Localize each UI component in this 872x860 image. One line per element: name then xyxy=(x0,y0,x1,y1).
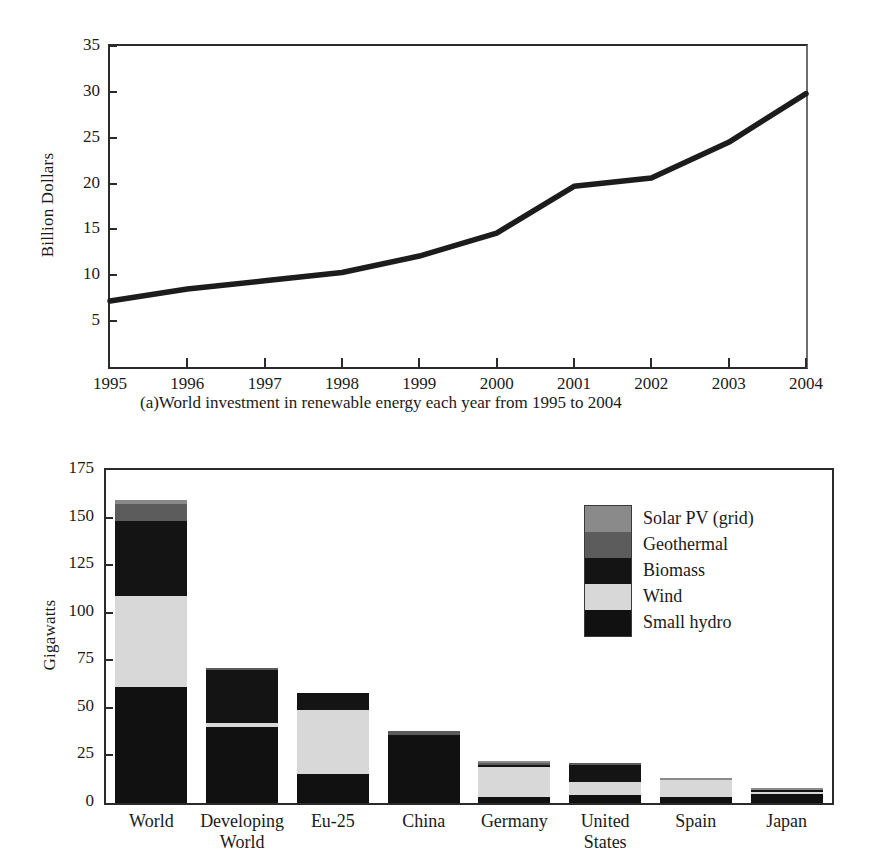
bar-chart-plot-area: Solar PV (grid)GeothermalBiomassWindSmal… xyxy=(104,468,834,805)
line-chart-x-tick xyxy=(186,358,188,367)
bar-segment-wind xyxy=(478,767,550,797)
bar-segment-small-hydro xyxy=(297,774,369,803)
bar-segment-small-hydro xyxy=(206,727,278,803)
bar-chart-y-tick-label: 25 xyxy=(38,743,94,763)
line-chart-x-tick-label: 1999 xyxy=(384,374,454,394)
bar-chart-y-tick xyxy=(104,517,113,519)
line-chart-y-tick-label: 5 xyxy=(46,310,100,330)
bar-segment-biomass xyxy=(297,693,369,710)
bar-segment-biomass xyxy=(115,521,187,595)
bar-chart-y-tick-label: 100 xyxy=(38,601,94,621)
bar-chart-y-tick xyxy=(104,707,113,709)
category-label-line: Japan xyxy=(707,811,867,832)
bar-world xyxy=(115,500,187,803)
line-chart-y-tick xyxy=(108,137,117,139)
bar-chart-y-tick-label: 175 xyxy=(38,458,94,478)
bar-developing-world xyxy=(206,668,278,803)
bar-segment-small-hydro xyxy=(478,797,550,803)
legend-swatch-column xyxy=(584,505,632,637)
line-chart-y-tick-label: 30 xyxy=(46,81,100,101)
bar-chart-y-tick-label: 125 xyxy=(38,553,94,573)
bar-chart-category-label: Japan xyxy=(707,811,867,832)
line-chart-y-tick xyxy=(108,320,117,322)
bar-segment-small-hydro xyxy=(660,797,732,803)
line-chart-x-tick-label: 1997 xyxy=(230,374,300,394)
bar-segment-wind xyxy=(297,710,369,775)
bar-segment-wind xyxy=(569,782,641,795)
line-chart-x-tick xyxy=(573,358,575,367)
line-chart-x-tick-label: 2002 xyxy=(616,374,686,394)
line-chart-x-tick xyxy=(805,358,807,367)
line-chart-figure: Billion Dollars 5101520253035 1995199619… xyxy=(0,0,872,440)
line-chart-y-tick-label: 15 xyxy=(46,218,100,238)
line-chart-y-tick xyxy=(108,91,117,93)
line-chart-x-tick xyxy=(728,358,730,367)
line-chart-y-tick xyxy=(108,183,117,185)
line-chart-y-axis-title: Billion Dollars xyxy=(38,145,58,265)
bar-eu-25 xyxy=(297,693,369,803)
bar-segment-biomass xyxy=(206,670,278,723)
line-chart-x-tick-label: 1995 xyxy=(75,374,145,394)
legend-label-geothermal: Geothermal xyxy=(643,531,754,557)
bar-chart-y-tick xyxy=(104,754,113,756)
line-chart-x-tick xyxy=(264,358,266,367)
line-chart-x-tick-label: 1996 xyxy=(152,374,222,394)
legend-swatch-wind xyxy=(585,584,631,610)
legend-label-small-hydro: Small hydro xyxy=(643,609,754,635)
line-chart-x-tick xyxy=(650,358,652,367)
bar-segment-geothermal xyxy=(115,504,187,521)
line-chart-y-tick-label: 20 xyxy=(46,173,100,193)
legend-label-column: Solar PV (grid)GeothermalBiomassWindSmal… xyxy=(643,505,754,637)
bar-chart-y-tick-label: 150 xyxy=(38,506,94,526)
bar-chart-y-tick xyxy=(104,659,113,661)
bar-germany xyxy=(478,761,550,803)
bar-chart-y-tick-label: 75 xyxy=(38,648,94,668)
line-chart-series-path xyxy=(110,46,806,367)
line-chart-x-tick-label: 2003 xyxy=(694,374,764,394)
category-label-line: States xyxy=(525,832,685,853)
category-label-line: World xyxy=(162,832,322,853)
line-chart-y-tick xyxy=(108,274,117,276)
bar-chart-figure: Gigawatts Solar PV (grid)GeothermalBioma… xyxy=(0,440,872,860)
line-chart-x-tick-label: 1998 xyxy=(307,374,377,394)
bar-chart-y-tick-label: 0 xyxy=(38,791,94,811)
line-chart-y-tick xyxy=(108,45,117,47)
bar-segment-small-hydro xyxy=(388,736,460,803)
line-chart-caption: (a)World investment in renewable energy … xyxy=(140,393,622,413)
line-chart-plot-area xyxy=(108,44,808,369)
bar-segment-wind xyxy=(660,780,732,797)
line-chart-y-tick-label: 25 xyxy=(46,127,100,147)
line-chart-x-tick-label: 2000 xyxy=(462,374,532,394)
legend-swatch-small-hydro xyxy=(585,610,631,636)
line-chart-x-tick xyxy=(496,358,498,367)
line-chart-x-tick-label: 2001 xyxy=(539,374,609,394)
bar-chart-y-tick xyxy=(104,612,113,614)
bar-united-states xyxy=(569,763,641,803)
bar-chart-y-axis-title: Gigawatts xyxy=(40,575,60,695)
line-chart-x-tick xyxy=(341,358,343,367)
line-chart-y-tick xyxy=(108,228,117,230)
legend-swatch-biomass xyxy=(585,558,631,584)
bar-chart-legend: Solar PV (grid)GeothermalBiomassWindSmal… xyxy=(584,505,754,637)
bar-spain xyxy=(660,778,732,803)
line-chart-y-tick-label: 35 xyxy=(46,35,100,55)
legend-label-biomass: Biomass xyxy=(643,557,754,583)
legend-swatch-geothermal xyxy=(585,532,631,558)
bar-chart-y-tick xyxy=(104,564,113,566)
bar-chart-y-tick-label: 50 xyxy=(38,696,94,716)
line-chart-x-tick-label: 2004 xyxy=(771,374,841,394)
bar-segment-biomass xyxy=(569,765,641,782)
line-chart-x-tick xyxy=(418,358,420,367)
bar-japan xyxy=(751,788,823,803)
bar-segment-wind xyxy=(115,596,187,687)
bar-china xyxy=(388,731,460,803)
legend-swatch-solar-pv-grid- xyxy=(585,506,631,532)
line-chart-y-tick-label: 10 xyxy=(46,264,100,284)
bar-segment-small-hydro xyxy=(751,794,823,804)
legend-label-solar-pv-grid-: Solar PV (grid) xyxy=(643,505,754,531)
bar-segment-small-hydro xyxy=(569,795,641,803)
line-series-world-investment-in-renewable-energy xyxy=(110,94,806,301)
bar-segment-small-hydro xyxy=(115,687,187,803)
legend-label-wind: Wind xyxy=(643,583,754,609)
